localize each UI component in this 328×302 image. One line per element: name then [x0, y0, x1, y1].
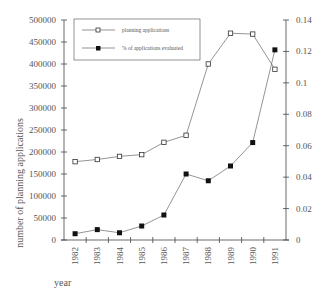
x-tick-label: 1989 [226, 247, 236, 266]
right-y-tick-label: 0.14 [296, 15, 312, 25]
left-y-tick-label: 200000 [29, 147, 57, 157]
data-point [117, 154, 121, 158]
left-y-tick-label: 50000 [34, 213, 57, 223]
data-point [273, 67, 277, 71]
left-y-tick-label: 0 [52, 235, 57, 245]
data-point [161, 213, 166, 218]
open-square-marker-icon [96, 28, 100, 32]
x-tick-label: 1984 [115, 247, 125, 266]
right-y-tick-label: 0.08 [296, 109, 312, 119]
right-y-tick-label: 0 [296, 235, 301, 245]
x-tick-label: 1988 [203, 247, 213, 266]
left-y-ticks: 0500001000001500002000002500003000003500… [29, 15, 67, 245]
series-line [75, 50, 275, 234]
series-percent-evaluated [73, 47, 278, 236]
x-tick-label: 1986 [159, 247, 169, 266]
data-point [117, 230, 122, 235]
left-y-tick-label: 150000 [29, 169, 57, 179]
data-point [272, 47, 277, 52]
data-point [206, 178, 211, 183]
x-ticks: 1982198319841985198619871988198919901991 [70, 237, 280, 265]
left-y-tick-label: 500000 [29, 15, 57, 25]
y-axis-title: number of planning applications [14, 118, 25, 248]
left-y-tick-label: 300000 [29, 103, 57, 113]
legend-box [74, 19, 200, 60]
left-y-tick-label: 250000 [29, 125, 57, 135]
legend-label: % of applications evaluated [122, 45, 183, 51]
right-y-tick-label: 0.1 [296, 78, 307, 88]
left-y-tick-label: 450000 [29, 37, 57, 47]
data-point [162, 140, 166, 144]
x-tick-label: 1991 [270, 247, 280, 265]
x-axis-title: year [54, 277, 72, 288]
data-point [206, 62, 210, 66]
right-y-tick-label: 0.02 [296, 204, 312, 214]
right-y-tick-label: 0.06 [296, 141, 312, 151]
legend: planning applications % of applications … [74, 19, 200, 60]
left-y-tick-label: 100000 [29, 191, 57, 201]
data-point [250, 140, 255, 145]
data-point [184, 172, 189, 177]
data-point [251, 32, 255, 36]
left-y-tick-label: 400000 [29, 59, 57, 69]
right-y-tick-label: 0.04 [296, 172, 312, 182]
x-tick-label: 1985 [137, 247, 147, 266]
x-tick-label: 1983 [92, 247, 102, 266]
x-tick-label: 1990 [248, 247, 258, 266]
data-point [140, 152, 144, 156]
right-y-tick-label: 0.12 [296, 46, 312, 56]
data-point [95, 157, 99, 161]
data-point [139, 224, 144, 229]
x-tick-label: 1987 [181, 247, 191, 266]
data-point [73, 159, 77, 163]
data-point [228, 31, 232, 35]
left-y-tick-label: 350000 [29, 81, 57, 91]
data-point [73, 231, 78, 236]
data-point [228, 163, 233, 168]
x-tick-label: 1982 [70, 247, 80, 265]
legend-label: planning applications [122, 27, 169, 33]
data-point [184, 133, 188, 137]
chart: 0500001000001500002000002500003000003500… [0, 0, 328, 302]
filled-square-marker-icon [96, 46, 101, 51]
data-point [95, 227, 100, 232]
series-layer [73, 31, 278, 236]
right-y-ticks: 00.020.040.060.080.10.120.14 [283, 15, 312, 245]
